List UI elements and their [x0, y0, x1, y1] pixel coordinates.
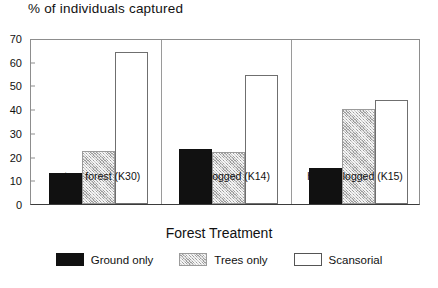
y-axis-tick-label: 70 [0, 33, 29, 45]
legend-item: Ground only [56, 253, 154, 266]
legend-swatch [56, 253, 84, 266]
y-axis-tick-label: 50 [0, 80, 29, 92]
y-axis-tick-mark [30, 62, 35, 63]
legend: Ground onlyTrees onlyScansorial [0, 253, 438, 266]
bar [245, 75, 278, 204]
chart-title: % of individuals captured [28, 1, 183, 16]
category-label: lightly logged (K14) [160, 170, 290, 182]
bar-chart: % of individuals captured 01020304050607… [0, 0, 438, 288]
x-axis-title: Forest Treatment [0, 225, 438, 241]
category-label: heavily logged (K15) [290, 170, 420, 182]
legend-item: Scansorial [294, 253, 383, 266]
y-axis-tick-label: 30 [0, 128, 29, 140]
legend-label: Ground only [91, 254, 154, 266]
y-axis-tick-label: 20 [0, 152, 29, 164]
y-axis-tick-mark [30, 86, 35, 87]
y-axis-tick-label: 60 [0, 57, 29, 69]
y-axis-tick-label: 0 [0, 199, 29, 211]
legend-label: Scansorial [329, 254, 383, 266]
legend-item: Trees only [179, 253, 267, 266]
y-axis-tick-mark [30, 133, 35, 134]
bar [342, 109, 375, 204]
y-axis-tick-mark [30, 110, 35, 111]
bar [375, 100, 408, 204]
category-label: mature forest (K30) [30, 170, 160, 182]
legend-swatch [179, 253, 207, 266]
legend-swatch [294, 253, 322, 266]
y-axis-tick-label: 10 [0, 175, 29, 187]
y-axis-tick-mark [30, 157, 35, 158]
legend-label: Trees only [214, 254, 267, 266]
y-axis-tick-label: 40 [0, 104, 29, 116]
